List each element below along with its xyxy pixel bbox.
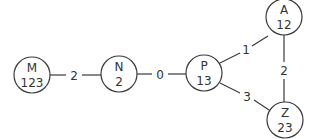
graph-diagram: 2 0 1 2 3 M 123 N 2 P 13 A 12 Z 23 — [0, 0, 317, 139]
edge-weight-a-z: 2 — [280, 64, 288, 78]
node-value: 13 — [196, 74, 211, 88]
node-name: A — [280, 3, 289, 17]
node-value: 12 — [276, 18, 291, 32]
node-m: M 123 — [14, 57, 50, 93]
node-value: 2 — [115, 75, 123, 89]
edge-weight-n-p: 0 — [156, 68, 164, 82]
node-n: N 2 — [101, 56, 137, 92]
edge-p-z — [220, 83, 240, 93]
node-name: N — [115, 60, 124, 74]
edge-weight-p-a: 1 — [242, 43, 250, 57]
node-a: A 12 — [266, 0, 302, 35]
edge-p-a — [252, 36, 268, 46]
edge-weight-p-z: 3 — [243, 90, 251, 104]
edge-p-a — [220, 53, 240, 63]
node-z: Z 23 — [267, 102, 303, 138]
node-value: 23 — [277, 121, 292, 135]
node-value: 123 — [21, 76, 44, 90]
edge-weight-m-n: 2 — [70, 69, 78, 83]
edge-p-z — [254, 100, 269, 110]
node-name: Z — [281, 106, 289, 120]
node-name: P — [200, 59, 207, 73]
node-name: M — [27, 61, 37, 75]
node-p: P 13 — [186, 55, 222, 91]
